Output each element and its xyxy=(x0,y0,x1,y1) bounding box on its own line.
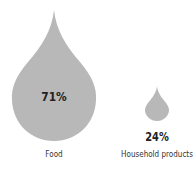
drop-pictograph-chart: 71% Food 24% Household products xyxy=(0,0,196,173)
food-drop-icon xyxy=(12,10,96,141)
household-drop-icon xyxy=(145,86,169,121)
household-category-label: Household products xyxy=(121,149,193,159)
food-value-label: 71% xyxy=(38,89,71,104)
food-category-label: Food xyxy=(30,149,78,159)
household-value-label: 24% xyxy=(141,130,174,144)
drops-graphic xyxy=(0,0,196,173)
